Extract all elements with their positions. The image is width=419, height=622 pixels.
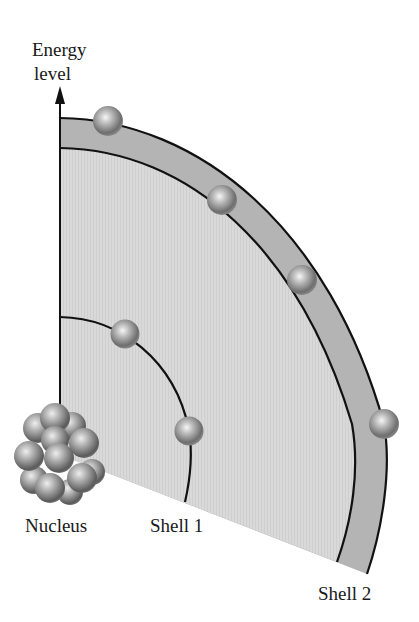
axis-arrow-icon [55,86,65,104]
shell2-electron [287,265,317,295]
shell2-electron [93,106,123,136]
shell1-electron [175,417,204,446]
atom-shell-diagram: Energy level Nucleus Shell 1 Shell 2 [0,0,419,622]
shell1-label: Shell 1 [150,515,203,536]
shell2-electron [207,185,237,215]
shell2-label: Shell 2 [318,583,371,604]
shell2-electron [369,409,399,439]
inner-wedge [60,148,355,562]
axis-label-energy: Energy [32,39,87,60]
nucleus-label: Nucleus [25,515,87,536]
axis-label-level: level [34,63,71,84]
shell1-electron [111,320,140,349]
